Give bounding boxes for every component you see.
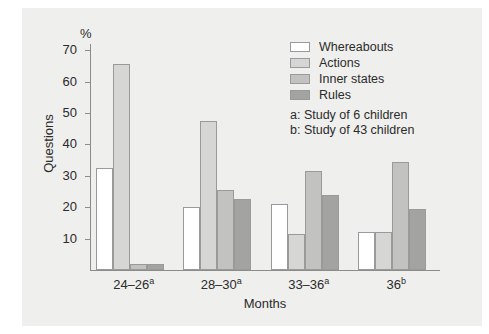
bar-chart: % Questions Months 10203040506070 24–26a…	[22, 8, 482, 326]
x-axis-title: Months	[90, 296, 440, 311]
bar	[147, 264, 164, 270]
bar	[375, 232, 392, 270]
legend-label: Inner states	[319, 73, 384, 86]
y-axis-tick-label: 50	[37, 106, 77, 119]
chart-legend: WhereaboutsActionsInner statesRules a: S…	[290, 40, 470, 138]
legend-label: Rules	[319, 89, 351, 102]
y-axis-tick-label: 60	[37, 75, 77, 88]
legend-item: Actions	[290, 56, 470, 70]
bar	[392, 162, 409, 270]
bar	[217, 190, 234, 270]
x-axis-tick-label-text: 36	[387, 277, 401, 292]
legend-items: WhereaboutsActionsInner statesRules	[290, 40, 470, 102]
bar	[113, 64, 130, 270]
legend-footnote: b: Study of 43 children	[290, 123, 470, 138]
x-axis-tick-label-superscript: b	[401, 276, 406, 286]
page-margin-artifacts	[2, 238, 16, 316]
x-axis-tick-label-superscript: a	[237, 276, 242, 286]
bar	[305, 171, 322, 270]
legend-swatch-rules	[290, 90, 310, 100]
x-axis-tick-label: 33–36a	[265, 276, 353, 292]
y-axis-tick-label-wrap: 50	[22, 113, 85, 114]
y-axis-tick-label: 70	[37, 43, 77, 56]
bar	[358, 232, 375, 270]
figure-panel: % Questions Months 10203040506070 24–26a…	[22, 8, 482, 326]
legend-item: Whereabouts	[290, 40, 470, 54]
legend-item: Rules	[290, 88, 470, 102]
x-axis-tick-label: 28–30a	[178, 276, 266, 292]
x-axis-tick-label: 24–26a	[90, 276, 178, 292]
legend-footnotes: a: Study of 6 childrenb: Study of 43 chi…	[290, 108, 470, 138]
x-axis-line	[90, 270, 440, 271]
bar	[183, 207, 200, 270]
bar	[271, 204, 288, 270]
y-axis-tick-label-wrap: 70	[22, 50, 85, 51]
page-canvas: % Questions Months 10203040506070 24–26a…	[0, 0, 489, 334]
y-axis-unit-label: %	[80, 26, 92, 41]
legend-swatch-whereabouts	[290, 42, 310, 52]
bar	[322, 195, 339, 270]
y-axis-tick-label-wrap: 30	[22, 176, 85, 177]
bar	[409, 209, 426, 270]
legend-item: Inner states	[290, 72, 470, 86]
legend-swatch-actions	[290, 58, 310, 68]
y-axis-tick-label-wrap: 60	[22, 82, 85, 83]
legend-label: Whereabouts	[319, 41, 393, 54]
legend-footnote: a: Study of 6 children	[290, 108, 470, 123]
y-axis-tick-label-wrap: 40	[22, 144, 85, 145]
y-axis-tick-label: 20	[37, 200, 77, 213]
x-axis-tick-label: 36b	[353, 276, 441, 292]
bar	[130, 264, 147, 270]
bar	[288, 234, 305, 270]
y-axis-tick-label: 30	[37, 169, 77, 182]
x-axis-tick-label-text: 33–36	[288, 277, 324, 292]
x-axis-tick-label-superscript: a	[149, 276, 154, 286]
x-axis-tick-label-text: 24–26	[113, 277, 149, 292]
y-axis-tick-label-wrap: 10	[22, 239, 85, 240]
x-axis-tick-label-text: 28–30	[201, 277, 237, 292]
y-axis-tick-label: 10	[37, 232, 77, 245]
bar-group	[96, 44, 164, 270]
bar	[234, 199, 251, 270]
legend-swatch-inner-states	[290, 74, 310, 84]
legend-label: Actions	[319, 57, 360, 70]
y-axis-tick-label: 40	[37, 137, 77, 150]
y-axis-tick-label-wrap: 20	[22, 207, 85, 208]
x-axis-tick-label-superscript: a	[324, 276, 329, 286]
bar-group	[183, 44, 251, 270]
bar	[96, 168, 113, 270]
bar	[200, 121, 217, 270]
